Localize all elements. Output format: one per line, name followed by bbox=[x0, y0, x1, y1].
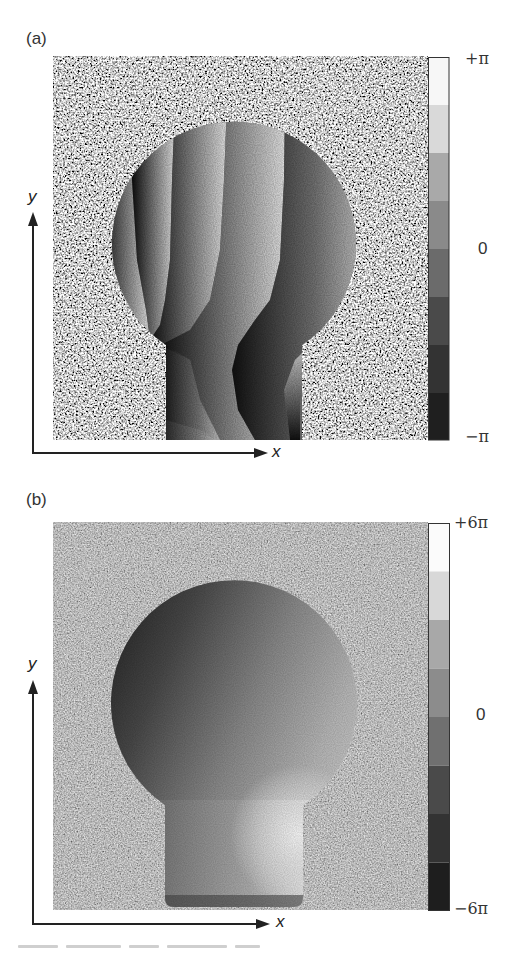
colorbar-a-mid-label: 0 bbox=[478, 239, 487, 259]
y-axis-label-a: y bbox=[28, 187, 37, 207]
x-axis-label-a: x bbox=[272, 442, 281, 462]
cut-off-caption bbox=[18, 945, 318, 949]
panel-b: (b) bbox=[0, 478, 513, 955]
x-axis-label-b: x bbox=[276, 912, 285, 932]
x-axis-arrow-icon bbox=[256, 919, 270, 929]
panel-a-figure bbox=[0, 0, 513, 478]
panel-b-figure bbox=[0, 478, 513, 955]
colorbar-b-max-label: +6π bbox=[454, 513, 488, 532]
x-axis-arrow-icon bbox=[254, 448, 268, 458]
panel-a: (a) bbox=[0, 0, 513, 478]
colorbar-b-min-label: −6π bbox=[454, 899, 488, 918]
y-axis-label-b: y bbox=[28, 654, 37, 674]
colorbar-a bbox=[428, 57, 449, 440]
colorbar-a-min-label: −π bbox=[465, 427, 489, 446]
y-axis-arrow-icon bbox=[28, 680, 38, 694]
colorbar-a-max-label: +π bbox=[465, 49, 489, 68]
colorbar-b-mid-label: 0 bbox=[476, 705, 485, 725]
y-axis-arrow-icon bbox=[28, 212, 38, 226]
colorbar-b bbox=[428, 523, 450, 911]
